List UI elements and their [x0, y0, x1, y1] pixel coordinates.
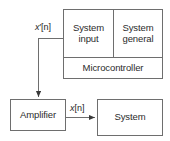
signal-label-x-n: x[n]	[70, 103, 85, 113]
amplifier-outline	[11, 100, 66, 131]
block-diagram: System input System general Microcontrol…	[0, 0, 170, 141]
system-outline	[98, 100, 163, 136]
signal-path-x-prime-n	[39, 39, 64, 97]
signal-x-prime-index: [n]	[41, 22, 51, 32]
diagram-canvas	[0, 0, 170, 141]
signal-x-index: [n]	[75, 103, 85, 113]
signal-label-x-prime-n: x′[n]	[35, 22, 51, 32]
